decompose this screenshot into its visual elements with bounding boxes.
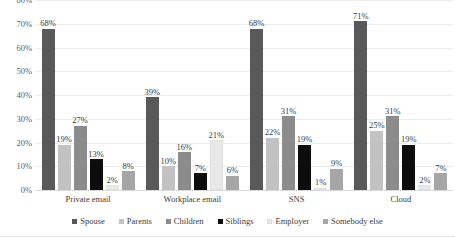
bar-slot: 9% <box>330 0 343 190</box>
bar[interactable] <box>146 97 159 190</box>
legend-swatch-icon <box>72 219 77 224</box>
y-axis-tick-label: 0% <box>0 186 32 195</box>
bar[interactable] <box>298 145 311 190</box>
bar-slot: 7% <box>194 0 207 190</box>
bar-slot: 21% <box>210 0 223 190</box>
legend-item-siblings[interactable]: Siblings <box>218 217 254 226</box>
bar-slot: 8% <box>122 0 135 190</box>
y-axis-tick-label: 80% <box>0 0 32 4</box>
bar-slot: 25% <box>370 0 383 190</box>
y-axis: 0%10%20%30%40%50%60%70%80% <box>0 0 36 200</box>
legend-label: Spouse <box>80 217 105 226</box>
legend-swatch-icon <box>119 219 124 224</box>
bar-value-label: 7% <box>435 164 446 173</box>
legend-item-parents[interactable]: Parents <box>119 217 152 226</box>
bar-slot: 2% <box>418 0 431 190</box>
bar-value-label: 1% <box>315 178 326 187</box>
bar[interactable] <box>194 173 207 190</box>
x-axis-tick-label-3: SNS <box>245 191 349 207</box>
plot-area: 68%19%27%13%2%8%39%10%16%7%21%6%68%22%31… <box>36 0 453 190</box>
legend-item-somebody-else[interactable]: Somebody else <box>323 217 383 226</box>
bar[interactable] <box>370 131 383 190</box>
bar-slot: 2% <box>106 0 119 190</box>
chart-frame-divider <box>0 236 455 237</box>
x-axis: Private emailWorkplace emailSNSCloud <box>36 191 453 207</box>
legend-swatch-icon <box>166 219 171 224</box>
bar[interactable] <box>330 169 343 190</box>
legend-label: Somebody else <box>331 217 383 226</box>
legend-item-spouse[interactable]: Spouse <box>72 217 105 226</box>
legend-swatch-icon <box>218 219 223 224</box>
y-axis-tick-label: 20% <box>0 138 32 147</box>
bar[interactable] <box>210 140 223 190</box>
bar-slot: 10% <box>162 0 175 190</box>
y-axis-tick-label: 60% <box>0 43 32 52</box>
bar-value-label: 71% <box>353 12 369 21</box>
bar-group: 68%19%27%13%2%8% <box>36 0 140 190</box>
y-axis-tick-label: 70% <box>0 20 32 29</box>
bar-group: 68%22%31%19%1%9% <box>245 0 349 190</box>
bar[interactable] <box>402 145 415 190</box>
bar-group: 71%25%31%19%2%7% <box>349 0 453 190</box>
bar[interactable] <box>250 29 263 191</box>
bar-value-label: 19% <box>56 135 72 144</box>
bar[interactable] <box>226 176 239 190</box>
legend-label: Children <box>174 217 204 226</box>
bar-value-label: 39% <box>145 88 161 97</box>
legend-label: Siblings <box>226 217 254 226</box>
bar[interactable] <box>74 126 87 190</box>
y-axis-tick-label: 30% <box>0 115 32 124</box>
legend-swatch-icon <box>267 219 272 224</box>
bar[interactable] <box>90 159 103 190</box>
bar-value-label: 9% <box>331 159 342 168</box>
bar-slot: 13% <box>90 0 103 190</box>
bar-slot: 39% <box>146 0 159 190</box>
bar[interactable] <box>58 145 71 190</box>
legend-swatch-icon <box>323 219 328 224</box>
bar[interactable] <box>162 166 175 190</box>
legend-item-employer[interactable]: Employer <box>267 217 309 226</box>
bar-slot: 68% <box>250 0 263 190</box>
bar-value-label: 7% <box>195 164 206 173</box>
legend-label: Parents <box>127 217 152 226</box>
bar[interactable] <box>434 173 447 190</box>
x-axis-tick-label-2: Workplace email <box>140 191 244 207</box>
chart-legend: SpouseParentsChildrenSiblingsEmployerSom… <box>0 213 455 229</box>
bar[interactable] <box>42 29 55 191</box>
bar-slot: 1% <box>314 0 327 190</box>
x-axis-tick-label-1: Private email <box>36 191 140 207</box>
bar[interactable] <box>418 185 431 190</box>
bar[interactable] <box>106 185 119 190</box>
bar-value-label: 68% <box>40 19 56 28</box>
bar-value-label: 19% <box>401 135 417 144</box>
bar[interactable] <box>266 138 279 190</box>
bar-value-label: 25% <box>369 121 385 130</box>
bar-value-label: 21% <box>209 131 225 140</box>
legend-item-children[interactable]: Children <box>166 217 204 226</box>
bar[interactable] <box>178 152 191 190</box>
bar-value-label: 22% <box>265 128 281 137</box>
bar[interactable] <box>386 116 399 190</box>
bar-value-label: 31% <box>281 107 297 116</box>
bar[interactable] <box>314 188 327 190</box>
bar-slot: 71% <box>354 0 367 190</box>
bar-slot: 19% <box>402 0 415 190</box>
bar-slot: 22% <box>266 0 279 190</box>
bar-value-label: 8% <box>122 162 133 171</box>
bar-groups: 68%19%27%13%2%8%39%10%16%7%21%6%68%22%31… <box>36 0 453 190</box>
bar[interactable] <box>122 171 135 190</box>
legend-label: Employer <box>275 217 309 226</box>
bar-value-label: 2% <box>106 176 117 185</box>
bar[interactable] <box>282 116 295 190</box>
bar-value-label: 6% <box>227 166 238 175</box>
bar-value-label: 10% <box>161 157 177 166</box>
bar-slot: 68% <box>42 0 55 190</box>
bar-slot: 6% <box>226 0 239 190</box>
y-axis-tick-label: 40% <box>0 91 32 100</box>
bar[interactable] <box>354 21 367 190</box>
bar-value-label: 31% <box>385 107 401 116</box>
bar-value-label: 16% <box>177 143 193 152</box>
y-axis-tick-label: 10% <box>0 162 32 171</box>
bar-value-label: 19% <box>297 135 313 144</box>
bar-slot: 7% <box>434 0 447 190</box>
